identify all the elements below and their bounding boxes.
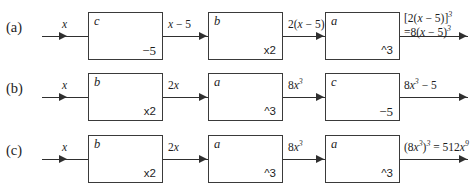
connector-a-1-arrowhead — [199, 32, 207, 40]
connector-c-2-arrowhead — [316, 155, 324, 163]
machine-box-b-1: bx2 — [88, 73, 163, 121]
machine-box-letter: a — [214, 76, 220, 89]
input-c-arrowhead — [59, 155, 67, 163]
machine-box-operation: x2 — [144, 105, 156, 118]
input-a-arrowhead — [59, 32, 67, 40]
machine-chain-row-c: (c)bx2a^3a^3x2x8x3(8x3)3 = 512x9 — [0, 125, 473, 187]
machine-box-operation: x2 — [264, 44, 276, 57]
connector-b-1-label: 2x — [168, 78, 179, 92]
output-c-arrowhead — [459, 155, 467, 163]
machine-box-letter: a — [214, 138, 220, 151]
machine-box-operation: ^3 — [381, 167, 393, 180]
machine-box-letter: b — [94, 138, 100, 151]
machine-box-c-3: a^3 — [325, 135, 400, 183]
output-b-arrowhead — [459, 93, 467, 101]
connector-a-2-label: 2(x − 5) — [288, 17, 325, 31]
machine-box-operation: ^3 — [381, 44, 393, 57]
machine-box-letter: a — [331, 15, 337, 28]
connector-a-1-label: x − 5 — [168, 17, 191, 31]
output-a-label: [2(x − 5)]3=8(x − 5)3 — [404, 11, 452, 39]
input-b-label: x — [62, 78, 67, 92]
output-a-label-line2: =8(x − 5)3 — [404, 25, 452, 39]
machine-box-a-3: a^3 — [325, 12, 400, 60]
row-label-c: (c) — [6, 142, 40, 158]
input-b-arrowhead — [59, 93, 67, 101]
machine-box-b-3: c−5 — [325, 73, 400, 121]
machine-box-b-2: a^3 — [208, 73, 283, 121]
machine-box-letter: a — [331, 138, 337, 151]
machine-box-operation: ^3 — [264, 167, 276, 180]
output-a-arrowhead — [459, 32, 467, 40]
machine-box-letter: c — [94, 15, 100, 28]
machine-box-operation: −5 — [142, 44, 156, 57]
machine-box-letter: c — [331, 76, 337, 89]
connector-b-2-arrowhead — [316, 93, 324, 101]
machine-box-c-1: bx2 — [88, 135, 163, 183]
machine-box-operation: −5 — [379, 105, 393, 118]
row-label-b: (b) — [6, 80, 40, 96]
connector-a-2-arrowhead — [316, 32, 324, 40]
input-c-label: x — [62, 140, 67, 154]
connector-c-1-label: 2x — [168, 140, 179, 154]
machine-box-a-1: c−5 — [88, 12, 163, 60]
machine-box-a-2: bx2 — [208, 12, 283, 60]
connector-b-2-label: 8x3 — [288, 78, 303, 92]
output-a-label-line1: [2(x − 5)]3 — [404, 11, 452, 25]
output-b-label: 8x3 − 5 — [404, 78, 437, 92]
machine-box-c-2: a^3 — [208, 135, 283, 183]
machine-chain-row-a: (a)c−5bx2a^3xx − 52(x − 5)[2(x − 5)]3=8(… — [0, 2, 473, 64]
machine-box-operation: ^3 — [264, 105, 276, 118]
output-c-line — [400, 159, 468, 160]
connector-c-2-label: 8x3 — [288, 140, 303, 154]
row-label-a: (a) — [6, 19, 40, 35]
machine-box-letter: b — [94, 76, 100, 89]
machine-box-operation: x2 — [144, 167, 156, 180]
connector-b-1-arrowhead — [199, 93, 207, 101]
function-machine-diagram: (a)c−5bx2a^3xx − 52(x − 5)[2(x − 5)]3=8(… — [0, 0, 473, 193]
output-b-line — [400, 97, 468, 98]
output-c-label: (8x3)3 = 512x9 — [404, 140, 469, 154]
input-a-label: x — [62, 17, 67, 31]
connector-c-1-arrowhead — [199, 155, 207, 163]
machine-chain-row-b: (b)bx2a^3c−5x2x8x38x3 − 5 — [0, 63, 473, 125]
machine-box-letter: b — [214, 15, 220, 28]
